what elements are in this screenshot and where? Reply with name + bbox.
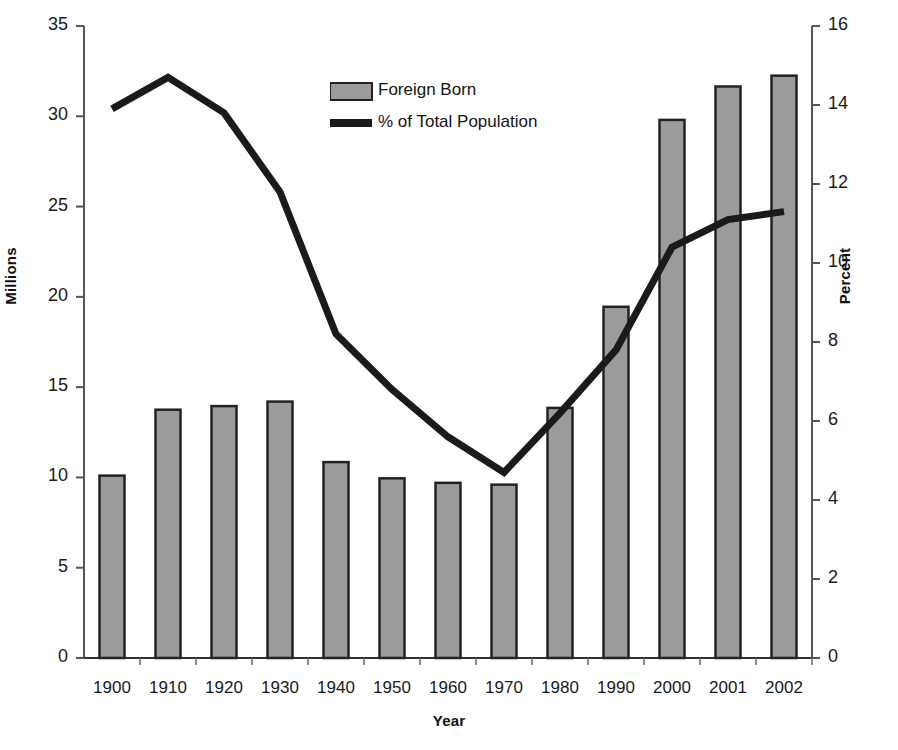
- right-axis-tick-label: 2: [828, 567, 872, 588]
- left-axis-ticks: [76, 26, 84, 658]
- right-axis-tick-label: 12: [828, 172, 872, 193]
- bar: [716, 86, 741, 658]
- x-axis-tick-label: 1990: [588, 678, 644, 698]
- x-axis-tick-label: 1950: [364, 678, 420, 698]
- left-axis-tick-label: 35: [24, 14, 68, 35]
- left-axis-tick-label: 0: [24, 646, 68, 667]
- x-axis-tick-label: 1960: [420, 678, 476, 698]
- chart-container: 05101520253035 0246810121416 19001910192…: [0, 0, 898, 750]
- x-axis-tick-label: 1980: [532, 678, 588, 698]
- bar: [548, 408, 573, 658]
- x-axis-tick-label: 1910: [140, 678, 196, 698]
- legend-label-percent-total-population: % of Total Population: [378, 112, 537, 132]
- right-axis-tick-label: 4: [828, 488, 872, 509]
- bar: [212, 406, 237, 658]
- legend-swatch-foreign-born: [330, 83, 372, 100]
- legend-label-foreign-born: Foreign Born: [378, 80, 476, 100]
- bar: [324, 462, 349, 658]
- legend-line-percent-total-population: [330, 119, 372, 127]
- x-axis-tick-label: 2000: [644, 678, 700, 698]
- x-axis-tick-label: 1920: [196, 678, 252, 698]
- y-axis-right-title: Percent: [836, 216, 853, 336]
- bar: [268, 402, 293, 658]
- right-axis-tick-label: 16: [828, 14, 872, 35]
- right-axis-ticks: [812, 26, 820, 658]
- bar: [380, 478, 405, 658]
- bar: [100, 476, 125, 658]
- x-axis-tick-label: 1970: [476, 678, 532, 698]
- bar-series-foreign-born: [100, 76, 813, 665]
- left-axis-tick-label: 15: [24, 375, 68, 396]
- left-axis-tick-label: 20: [24, 285, 68, 306]
- right-axis-tick-label: 0: [828, 646, 872, 667]
- x-axis-tick-label: 2001: [700, 678, 756, 698]
- x-axis-tick-label: 1940: [308, 678, 364, 698]
- x-axis-title: Year: [0, 712, 898, 729]
- right-axis-tick-label: 6: [828, 409, 872, 430]
- left-axis-tick-label: 5: [24, 556, 68, 577]
- x-axis-tick-label: 1930: [252, 678, 308, 698]
- y-axis-left-title: Millions: [2, 216, 19, 336]
- right-axis-tick-label: 14: [828, 93, 872, 114]
- bar: [436, 483, 461, 658]
- left-axis-tick-label: 25: [24, 195, 68, 216]
- left-axis-tick-label: 10: [24, 465, 68, 486]
- bar: [156, 410, 181, 658]
- left-axis-tick-label: 30: [24, 104, 68, 125]
- x-axis-tick-label: 1900: [84, 678, 140, 698]
- x-axis-tick-label: 2002: [756, 678, 812, 698]
- bar: [772, 76, 797, 658]
- bar: [492, 485, 517, 658]
- bar: [660, 120, 685, 658]
